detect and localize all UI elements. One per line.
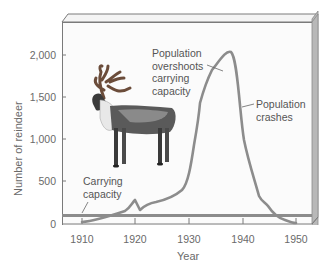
annotation-line: capacity xyxy=(83,188,123,201)
annotation-crash: Population crashes xyxy=(256,98,306,123)
x-tick-label: 1930 xyxy=(169,233,209,245)
y-tick-label: 0 xyxy=(8,218,56,230)
x-tick-label: 1920 xyxy=(115,233,155,245)
annotation-line: capacity xyxy=(152,85,203,98)
annotation-overshoot: Population overshoots carrying capacity xyxy=(152,47,203,97)
x-tick-label: 1950 xyxy=(276,233,316,245)
annotation-line: carrying xyxy=(152,72,203,85)
annotation-capacity: Carrying capacity xyxy=(83,175,123,200)
x-tick-label: 1940 xyxy=(223,233,263,245)
annotation-line: overshoots xyxy=(152,60,203,73)
annotation-line: Population xyxy=(256,98,306,111)
y-axis-label: Number of reindeer xyxy=(12,101,24,196)
x-tick-label: 1910 xyxy=(62,233,102,245)
y-tick-label: 2,000 xyxy=(8,49,56,61)
x-axis-label: Year xyxy=(177,250,199,262)
annotation-line: Population xyxy=(152,47,203,60)
annotation-line: crashes xyxy=(256,111,306,124)
annotation-line: Carrying xyxy=(83,175,123,188)
